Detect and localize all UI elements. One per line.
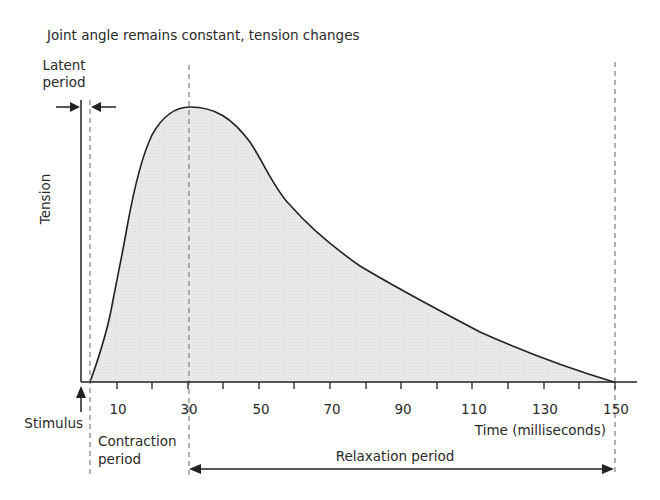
y-axis-label: Tension bbox=[37, 174, 53, 225]
tick-label-50: 50 bbox=[252, 401, 269, 417]
arrow-right-icon bbox=[70, 102, 80, 112]
x-axis-tick-labels: 10 30 50 70 90 110 130 150 bbox=[109, 401, 628, 417]
relaxation-period-arrow bbox=[189, 464, 614, 474]
tick-label-110: 110 bbox=[461, 401, 487, 417]
tick-label-130: 130 bbox=[532, 401, 558, 417]
arrow-left-icon bbox=[91, 102, 101, 112]
latent-period-label-line1: Latent bbox=[42, 57, 85, 73]
x-axis-label: Time (milliseconds) bbox=[474, 422, 606, 438]
tick-label-150: 150 bbox=[603, 401, 629, 417]
twitch-diagram: Joint angle remains constant, tension ch… bbox=[0, 0, 660, 500]
tick-label-70: 70 bbox=[323, 401, 340, 417]
latent-period-arrows bbox=[56, 102, 116, 112]
relaxation-period-label: Relaxation period bbox=[336, 448, 455, 464]
diagram-title: Joint angle remains constant, tension ch… bbox=[46, 27, 360, 43]
arrow-right-icon bbox=[602, 464, 614, 474]
tick-label-90: 90 bbox=[394, 401, 411, 417]
stimulus-arrow bbox=[76, 386, 86, 412]
latent-period-label-line2: period bbox=[42, 74, 85, 90]
contraction-period-label-line1: Contraction bbox=[98, 433, 177, 449]
arrow-up-icon bbox=[76, 386, 86, 398]
contraction-period-label-line2: period bbox=[98, 451, 141, 467]
tick-label-30: 30 bbox=[180, 401, 197, 417]
tick-label-10: 10 bbox=[109, 401, 126, 417]
tension-curve-area bbox=[90, 107, 614, 382]
x-axis-ticks bbox=[117, 382, 615, 389]
arrow-left-icon bbox=[189, 464, 201, 474]
stimulus-label: Stimulus bbox=[24, 415, 83, 431]
